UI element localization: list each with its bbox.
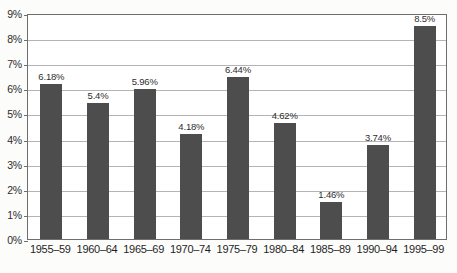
bar-group: 4.62% xyxy=(261,15,308,239)
y-tick-label: 6% xyxy=(7,83,22,95)
x-tick-label: 1975–79 xyxy=(214,243,261,255)
bar-value-label: 4.18% xyxy=(178,121,204,132)
bar-group: 5.4% xyxy=(75,15,122,239)
x-tick-label: 1995–99 xyxy=(400,243,447,255)
bar-group: 6.18% xyxy=(28,15,75,239)
y-tick-label: 5% xyxy=(7,108,22,120)
bar-value-label: 1.46% xyxy=(318,189,344,200)
bar[interactable] xyxy=(320,202,342,239)
y-tick-label: 2% xyxy=(7,184,22,196)
y-tick-label: 3% xyxy=(7,159,22,171)
bar-chart: 9%8%7%6%5%4%3%2%1%0% 6.18%5.4%5.96%4.18%… xyxy=(0,0,457,273)
bar-value-label: 6.18% xyxy=(38,71,64,82)
y-tick-label: 8% xyxy=(7,33,22,45)
x-tick-label: 1990–94 xyxy=(354,243,401,255)
y-tick-label: 4% xyxy=(7,134,22,146)
bar[interactable] xyxy=(180,134,202,239)
bar[interactable] xyxy=(40,84,62,239)
plot-area: 6.18%5.4%5.96%4.18%6.44%4.62%1.46%3.74%8… xyxy=(27,14,447,240)
bar[interactable] xyxy=(227,77,249,239)
bar-value-label: 5.4% xyxy=(88,90,109,101)
bar[interactable] xyxy=(414,26,436,239)
x-tick-label: 1980–84 xyxy=(260,243,307,255)
bar[interactable] xyxy=(134,89,156,239)
bar[interactable] xyxy=(87,103,109,239)
x-tick-label: 1960–64 xyxy=(74,243,121,255)
bar-value-label: 3.74% xyxy=(365,132,391,143)
bar-value-label: 4.62% xyxy=(272,110,298,121)
bars-container: 6.18%5.4%5.96%4.18%6.44%4.62%1.46%3.74%8… xyxy=(28,15,446,239)
x-tick-label: 1965–69 xyxy=(120,243,167,255)
bar-value-label: 6.44% xyxy=(225,64,251,75)
bar-group: 5.96% xyxy=(121,15,168,239)
bar-group: 1.46% xyxy=(308,15,355,239)
bar-group: 8.5% xyxy=(401,15,448,239)
y-tick-label: 9% xyxy=(7,8,22,20)
y-tick-label: 7% xyxy=(7,58,22,70)
bar[interactable] xyxy=(274,123,296,239)
bar[interactable] xyxy=(367,145,389,239)
y-tick-label: 0% xyxy=(7,234,22,246)
y-tickmark xyxy=(24,241,28,242)
x-tick-label: 1970–74 xyxy=(167,243,214,255)
x-tick-label: 1985–89 xyxy=(307,243,354,255)
bar-group: 4.18% xyxy=(168,15,215,239)
bar-value-label: 5.96% xyxy=(132,76,158,87)
bar-group: 3.74% xyxy=(355,15,402,239)
y-axis-tick-labels: 9%8%7%6%5%4%3%2%1%0% xyxy=(0,14,25,240)
bar-group: 6.44% xyxy=(215,15,262,239)
y-tick-label: 1% xyxy=(7,209,22,221)
bar-value-label: 8.5% xyxy=(414,13,435,24)
x-axis-tick-labels: 1955–591960–641965–691970–741975–791980–… xyxy=(27,243,447,263)
x-tick-label: 1955–59 xyxy=(27,243,74,255)
